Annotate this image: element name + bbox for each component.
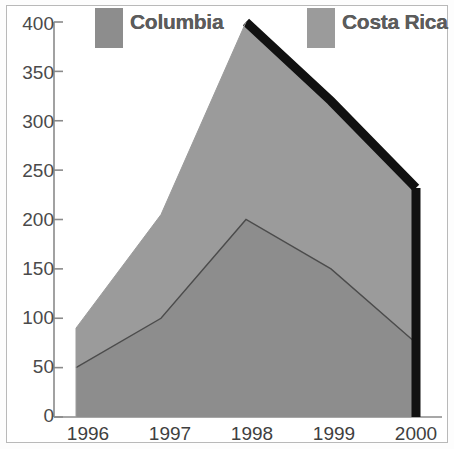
y-tick-50: 50 (2, 357, 54, 376)
x-tick-1998: 1998 (217, 424, 287, 443)
chart-root: 400 350 300 250 200 150 100 50 0 1996 19… (0, 0, 454, 449)
x-tick-1999: 1999 (299, 424, 369, 443)
x-tick-1996: 1996 (53, 424, 123, 443)
x-tick-2000: 2000 (381, 424, 451, 443)
y-tick-200: 200 (2, 210, 54, 229)
x-tick-1997: 1997 (135, 424, 205, 443)
y-tick-400: 400 (2, 14, 54, 33)
area-chart-plot (0, 0, 454, 449)
y-tick-250: 250 (2, 161, 54, 180)
y-tick-100: 100 (2, 308, 54, 327)
y-tick-0: 0 (2, 406, 54, 425)
y-tick-150: 150 (2, 259, 54, 278)
y-tick-300: 300 (2, 112, 54, 131)
y-tick-350: 350 (2, 63, 54, 82)
